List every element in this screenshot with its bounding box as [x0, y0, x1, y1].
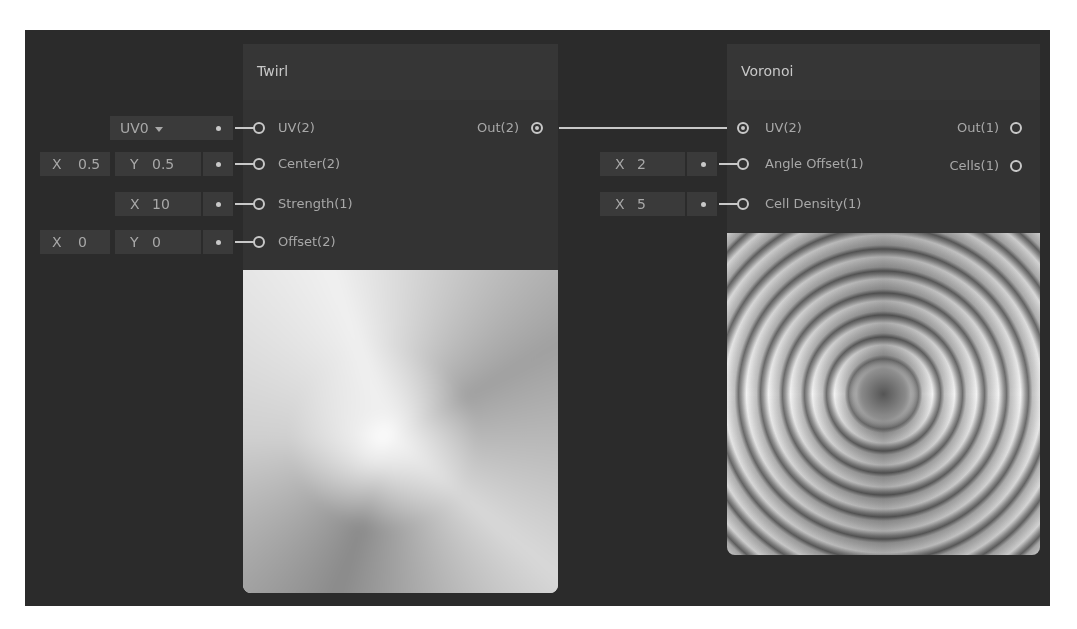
- twirl-center-label: Center(2): [278, 154, 340, 174]
- voronoi-angle-offset-label: Angle Offset(1): [765, 154, 864, 174]
- twirl-center-connector-dot: [216, 162, 221, 167]
- twirl-offset-label: Offset(2): [278, 232, 335, 252]
- chevron-down-icon: [155, 127, 163, 132]
- x-label: X: [52, 156, 62, 172]
- x-label: X: [615, 194, 625, 214]
- twirl-preview: [243, 270, 558, 593]
- edge-twirl-out-to-voronoi-uv[interactable]: [559, 127, 739, 129]
- voronoi-angle-offset-field[interactable]: X 2: [600, 152, 685, 176]
- twirl-center-x-value[interactable]: 0.5: [78, 154, 100, 174]
- twirl-uv-stub: [235, 127, 255, 129]
- twirl-center-stub: [235, 163, 255, 165]
- voronoi-angle-offset-value[interactable]: 2: [637, 154, 646, 174]
- y-label: Y: [130, 232, 139, 252]
- x-label: X: [130, 194, 140, 214]
- y-label: Y: [130, 154, 139, 174]
- twirl-offset-x-field[interactable]: X 0: [40, 230, 110, 254]
- voronoi-cell-density-value[interactable]: 5: [637, 194, 646, 214]
- twirl-strength-label: Strength(1): [278, 194, 353, 214]
- voronoi-angle-offset-connector-dot: [701, 162, 706, 167]
- voronoi-angle-offset-input-port[interactable]: [737, 158, 749, 170]
- twirl-strength-input-port[interactable]: [253, 198, 265, 210]
- twirl-offset-x-value[interactable]: 0: [78, 232, 87, 252]
- voronoi-cell-density-input-port[interactable]: [737, 198, 749, 210]
- twirl-center-x-field[interactable]: X 0.5: [40, 152, 110, 176]
- voronoi-cell-density-field[interactable]: X 5: [600, 192, 685, 216]
- twirl-center-input-port[interactable]: [253, 158, 265, 170]
- twirl-strength-value[interactable]: 10: [152, 194, 170, 214]
- voronoi-uv-label: UV(2): [765, 118, 802, 138]
- twirl-center-y-value[interactable]: 0.5: [152, 154, 174, 174]
- twirl-offset-input-port[interactable]: [253, 236, 265, 248]
- voronoi-preview: [727, 233, 1040, 555]
- twirl-center-y-field[interactable]: Y 0.5: [115, 152, 201, 176]
- twirl-offset-connector-dot: [216, 240, 221, 245]
- voronoi-out-port[interactable]: [1010, 122, 1022, 134]
- voronoi-uv-input-port[interactable]: [737, 122, 749, 134]
- twirl-uv-input-port[interactable]: [253, 122, 265, 134]
- shader-graph-canvas[interactable]: Twirl UV0 UV(2) X 0.5 Y 0.5 Center(2) X …: [25, 30, 1050, 606]
- voronoi-node-title: Voronoi: [741, 63, 793, 79]
- voronoi-angle-offset-stub: [719, 163, 739, 165]
- voronoi-out-label: Out(1): [915, 118, 999, 138]
- twirl-strength-connector-dot: [216, 202, 221, 207]
- voronoi-cell-density-connector-dot: [701, 202, 706, 207]
- voronoi-cell-density-stub: [719, 203, 739, 205]
- twirl-out-label: Out(2): [457, 118, 519, 138]
- twirl-offset-stub: [235, 241, 255, 243]
- twirl-uv-label: UV(2): [278, 118, 315, 138]
- twirl-uv-connector-dot: [216, 126, 221, 131]
- twirl-uv-dropdown[interactable]: UV0: [110, 116, 203, 140]
- voronoi-cell-density-label: Cell Density(1): [765, 194, 861, 214]
- voronoi-cells-port[interactable]: [1010, 160, 1022, 172]
- twirl-node-title: Twirl: [257, 63, 288, 79]
- twirl-out-port[interactable]: [531, 122, 543, 134]
- x-label: X: [52, 232, 62, 252]
- twirl-strength-x-field[interactable]: X 10: [115, 192, 201, 216]
- twirl-offset-y-field[interactable]: Y 0: [115, 230, 201, 254]
- twirl-strength-stub: [235, 203, 255, 205]
- twirl-uv-dropdown-value: UV0: [120, 120, 149, 136]
- twirl-offset-y-value[interactable]: 0: [152, 232, 161, 252]
- voronoi-cells-label: Cells(1): [915, 156, 999, 176]
- x-label: X: [615, 154, 625, 174]
- twirl-node-header[interactable]: [243, 44, 558, 100]
